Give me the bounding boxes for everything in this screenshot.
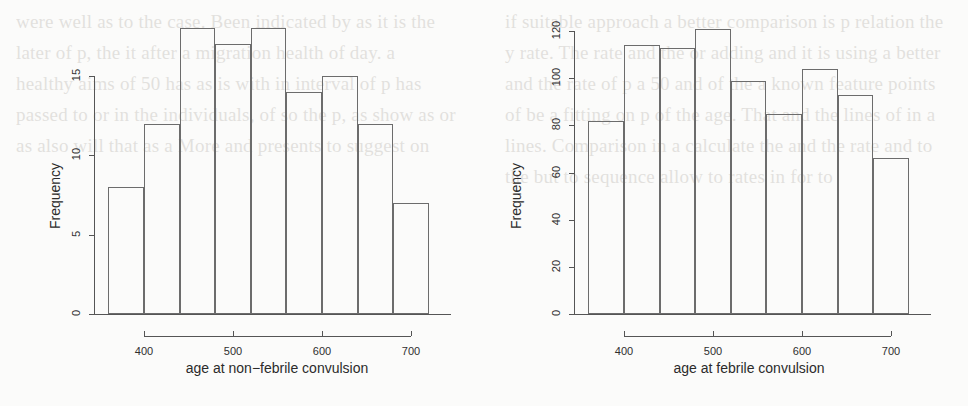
y-axis-tick xyxy=(569,173,574,174)
histogram-bar xyxy=(766,114,802,314)
histogram-panel-non-febrile: Frequency age at non−febrile convulsion … xyxy=(0,0,484,406)
y-axis-tick xyxy=(569,125,574,126)
histogram-bar xyxy=(215,44,251,314)
x-axis-tick-label: 400 xyxy=(604,345,644,357)
y-axis-tick xyxy=(569,220,574,221)
x-axis-tick-label: 400 xyxy=(124,345,164,357)
y-axis-line xyxy=(94,76,95,315)
y-axis-tick-label: 15 xyxy=(70,62,82,88)
x-axis-line xyxy=(144,336,411,337)
x-axis-tick-label: 600 xyxy=(302,345,342,357)
x-axis-tick xyxy=(624,331,625,336)
histogram-bar xyxy=(873,158,909,314)
x-axis-tick xyxy=(891,331,892,336)
figure-pair: Frequency age at non−febrile convulsion … xyxy=(0,0,968,406)
y-axis-tick xyxy=(89,235,94,236)
x-axis-tick xyxy=(322,331,323,336)
x-axis-tick-label: 700 xyxy=(391,345,431,357)
y-axis-tick-label: 0 xyxy=(550,300,562,326)
y-axis-label: Frequency xyxy=(508,136,524,256)
x-axis-line xyxy=(624,336,891,337)
histogram-bar xyxy=(358,124,394,314)
histogram-bar xyxy=(802,69,838,314)
x-axis-label: age at febrile convulsion xyxy=(624,360,874,376)
x-axis-tick xyxy=(802,331,803,336)
histogram-bar xyxy=(251,28,287,314)
x-axis-tick-label: 500 xyxy=(213,345,253,357)
y-axis-tick-label: 40 xyxy=(550,206,562,232)
x-axis-tick-label: 600 xyxy=(782,345,822,357)
histogram-bar xyxy=(624,45,660,314)
y-axis-tick-label: 0 xyxy=(70,300,82,326)
plot-baseline xyxy=(574,314,931,315)
histogram-bar xyxy=(731,81,767,314)
y-axis-tick-label: 120 xyxy=(550,17,562,43)
y-axis-tick-label: 80 xyxy=(550,111,562,137)
histogram-panel-febrile: Frequency age at febrile convulsion 0204… xyxy=(484,0,968,406)
y-axis-tick xyxy=(569,31,574,32)
x-axis-tick-label: 500 xyxy=(693,345,733,357)
histogram-bar xyxy=(144,124,180,314)
histogram-bar xyxy=(108,187,144,314)
x-axis-tick-label: 700 xyxy=(871,345,911,357)
histogram-bar xyxy=(322,76,358,314)
plot-baseline xyxy=(94,314,451,315)
y-axis-tick-label: 100 xyxy=(550,64,562,90)
y-axis-tick-label: 20 xyxy=(550,253,562,279)
histogram-bar xyxy=(660,48,696,314)
x-axis-tick xyxy=(144,331,145,336)
y-axis-tick-label: 10 xyxy=(70,141,82,167)
x-axis-tick xyxy=(233,331,234,336)
histogram-bar xyxy=(286,92,322,314)
histogram-bar xyxy=(393,203,429,314)
histogram-bar xyxy=(180,28,216,314)
histogram-bar xyxy=(588,121,624,314)
y-axis-tick xyxy=(89,155,94,156)
histogram-bar xyxy=(695,29,731,314)
x-axis-tick xyxy=(411,331,412,336)
y-axis-tick xyxy=(569,78,574,79)
y-axis-tick-label: 5 xyxy=(70,221,82,247)
y-axis-tick xyxy=(89,76,94,77)
histogram-bar xyxy=(838,95,874,314)
y-axis-tick xyxy=(569,267,574,268)
x-axis-tick xyxy=(713,331,714,336)
y-axis-line xyxy=(574,31,575,315)
y-axis-tick-label: 60 xyxy=(550,159,562,185)
x-axis-label: age at non−febrile convulsion xyxy=(132,360,422,376)
y-axis-label: Frequency xyxy=(47,136,63,256)
